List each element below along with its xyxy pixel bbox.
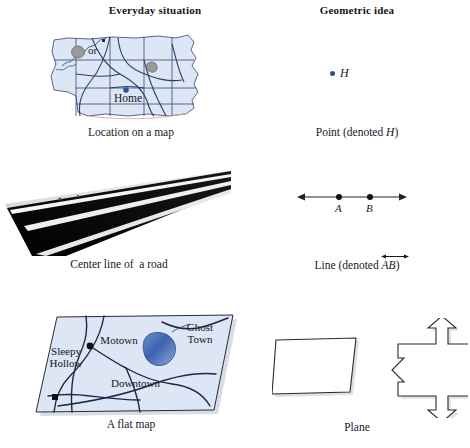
label-sleepy-hollow-line2: Hollow	[40, 358, 92, 370]
label-ghost-town: Ghost Town	[176, 322, 224, 345]
point-a-label: A	[335, 202, 342, 214]
plane-diagram	[272, 318, 468, 418]
flat-map-label-layer: Sleepy Hollow Motown Ghost Town Downtown	[28, 310, 240, 420]
arrowhead-left-icon	[297, 193, 305, 200]
caption-point-denoted: Point (denoted H)	[262, 126, 452, 138]
column-header-geometric-idea: Geometric idea	[262, 4, 452, 16]
roadside-object-b	[77, 195, 80, 198]
label-ghost-town-line2: Town	[176, 334, 224, 346]
figure-root: Everyday situation Geometric idea	[0, 0, 470, 448]
double-arrow-overline-icon	[381, 254, 409, 259]
lake-west	[72, 46, 85, 58]
city-marker-north	[102, 39, 105, 42]
caption-line-prefix: Line (denoted	[315, 259, 382, 271]
caption-point-prefix: Point (denoted	[316, 126, 386, 138]
caption-line-symbol: AB	[382, 259, 396, 271]
caption-line-suffix: )	[396, 259, 400, 271]
roadside-object-a	[58, 197, 61, 200]
state-map-illustration	[48, 30, 214, 122]
line-ab-graphic	[296, 188, 408, 206]
label-ghost-town-line1: Ghost	[176, 322, 224, 334]
road-photograph	[2, 168, 232, 258]
label-sleepy-hollow: Sleepy Hollow	[40, 346, 92, 369]
road-surface	[7, 171, 231, 256]
caption-plane: Plane	[262, 421, 452, 433]
caption-center-line-of-a-road: Center line of a road	[24, 258, 214, 270]
label-sleepy-hollow-line1: Sleepy	[40, 346, 92, 358]
caption-a-flat-map: A flat map	[46, 418, 216, 430]
label-motown: Motown	[90, 335, 148, 347]
column-header-everyday-situation: Everyday situation	[60, 4, 250, 16]
caption-line-denoted: Line (denoted AB)	[262, 258, 452, 271]
caption-line-symbol-group: AB	[382, 258, 396, 271]
point-h-label: H	[340, 66, 349, 81]
arrowhead-right-icon	[399, 193, 407, 200]
plane-parallelogram	[272, 338, 356, 394]
plane-four-way-arrow-group	[392, 318, 468, 418]
home-location-dot	[123, 87, 129, 93]
point-a-dot	[336, 194, 342, 200]
point-dot-icon	[330, 71, 335, 76]
point-b-dot	[367, 194, 373, 200]
line-ab-diagram: A B	[296, 188, 408, 218]
plane-four-way-arrow-icon	[392, 318, 468, 418]
label-downtown: Downtown	[88, 378, 160, 390]
caption-point-suffix: )	[394, 126, 398, 138]
point-h-diagram: H	[330, 66, 349, 81]
point-b-label: B	[366, 202, 373, 214]
caption-location-on-a-map: Location on a map	[46, 126, 216, 138]
lake-east	[147, 62, 158, 72]
plane-or-text: or	[88, 44, 97, 56]
